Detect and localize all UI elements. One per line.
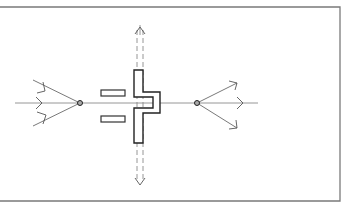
- upper-rectangle: [101, 90, 125, 96]
- right-node: [195, 101, 200, 106]
- arrow-down-icon: [135, 178, 145, 185]
- left-node: [78, 101, 83, 106]
- central-notched-bar: [134, 70, 160, 143]
- right-fan: [195, 81, 244, 129]
- diagram-frame: [0, 7, 340, 201]
- vertical-dashed-axis: [135, 25, 145, 185]
- diagram-canvas: [0, 0, 351, 206]
- lower-rectangle: [101, 116, 125, 122]
